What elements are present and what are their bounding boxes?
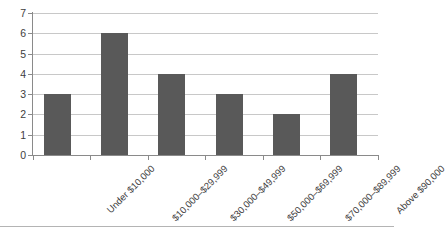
- bar-50000-69999: [216, 94, 243, 155]
- gridline: [33, 13, 378, 14]
- y-tick-mark: [28, 33, 32, 34]
- y-tick-label-5: 5: [4, 49, 26, 59]
- x-axis-label-under-10000: Under $10,000: [104, 163, 156, 215]
- bar-above-90000: [330, 74, 357, 155]
- x-tick-mark: [263, 156, 264, 160]
- y-axis-line: [32, 12, 33, 156]
- x-tick-mark: [90, 156, 91, 160]
- x-tick-mark: [148, 156, 149, 160]
- x-axis-label-50000-69999: $50,000–$69,999: [285, 163, 345, 223]
- gridline: [33, 54, 378, 55]
- bottom-divider: [0, 226, 394, 227]
- y-tick-label-2: 2: [4, 109, 26, 119]
- x-tick-mark: [205, 156, 206, 160]
- y-tick-mark: [28, 135, 32, 136]
- y-tick-mark: [28, 155, 32, 156]
- x-tick-mark: [33, 156, 34, 160]
- y-tick-label-6: 6: [4, 28, 26, 38]
- x-tick-mark: [320, 156, 321, 160]
- bar-under-10000: [44, 94, 71, 155]
- gridline: [33, 114, 378, 115]
- gridline: [33, 135, 378, 136]
- x-axis-label-70000-89999: $70,000–$89,999: [343, 163, 403, 223]
- y-tick-label-3: 3: [4, 89, 26, 99]
- gridline: [33, 74, 378, 75]
- bar-70000-89999: [273, 114, 300, 155]
- x-tick-mark: [378, 156, 379, 160]
- y-tick-mark: [28, 114, 32, 115]
- bar-10000-29999: [101, 33, 128, 155]
- x-axis-label-30000-49999: $30,000–$49,999: [228, 163, 288, 223]
- y-tick-mark: [28, 54, 32, 55]
- y-tick-label-0: 0: [4, 150, 26, 160]
- gridline: [33, 94, 378, 95]
- x-axis-label-10000-29999: $10,000–$29,999: [170, 163, 230, 223]
- y-tick-label-1: 1: [4, 130, 26, 140]
- plot-area: [33, 13, 378, 155]
- y-tick-label-7: 7: [4, 8, 26, 18]
- y-tick-label-4: 4: [4, 69, 26, 79]
- y-tick-mark: [28, 94, 32, 95]
- bar-30000-49999: [158, 74, 185, 155]
- gridline: [33, 33, 378, 34]
- y-tick-mark: [28, 74, 32, 75]
- y-tick-mark: [28, 13, 32, 14]
